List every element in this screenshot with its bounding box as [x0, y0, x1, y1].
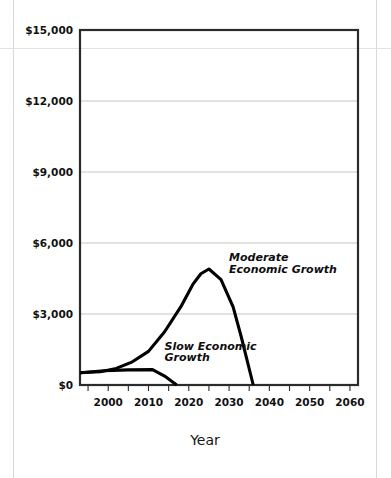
x-tick-label-2060: 2060 — [335, 396, 364, 408]
x-tick-label-2050: 2050 — [295, 396, 324, 408]
x-tick-label-2000: 2000 — [94, 396, 123, 408]
chart-container: $0$3,000$6,000$9,000$12,000$15,000 20002… — [0, 0, 391, 478]
y-tick-label-9000: $9,000 — [32, 166, 73, 178]
x-tick-label-2040: 2040 — [255, 396, 284, 408]
y-tick-label-15000: $15,000 — [25, 24, 73, 36]
x-tick-label-2010: 2010 — [134, 396, 163, 408]
annotation-label-1: Economic Growth — [229, 263, 337, 276]
x-tick-label-2030: 2030 — [214, 396, 243, 408]
y-tick-label-6000: $6,000 — [32, 237, 73, 249]
x-tick-label-2020: 2020 — [174, 396, 203, 408]
y-tick-label-0: $0 — [58, 379, 73, 391]
economic-growth-line-chart: $0$3,000$6,000$9,000$12,000$15,000 20002… — [0, 0, 391, 478]
y-tick-label-3000: $3,000 — [32, 308, 73, 320]
x-axis-title: Year — [189, 432, 220, 448]
x-axis-tick-labels: 2000201020202030204020502060 — [94, 396, 365, 408]
annotation-label-3: Growth — [165, 351, 210, 364]
y-tick-label-12000: $12,000 — [25, 95, 73, 107]
